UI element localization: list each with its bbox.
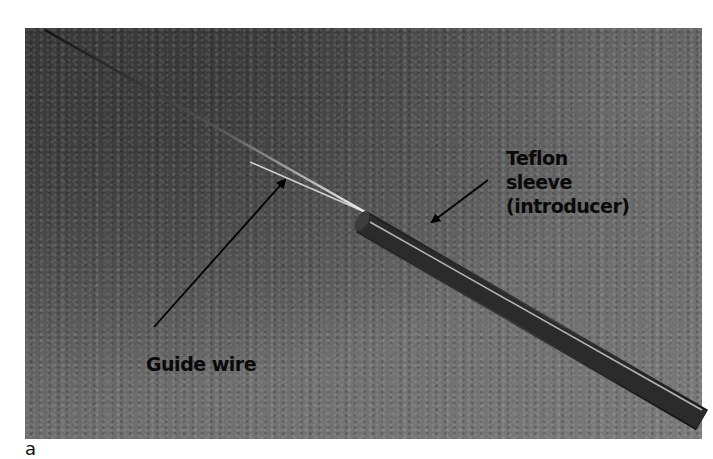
label-teflon-line1: Teflon [506,146,630,170]
label-teflon-line3: (introducer) [506,194,630,218]
panel-letter: a [25,440,36,458]
sleeve-arrow [432,180,488,222]
photo-overlay [0,0,713,459]
label-teflon-line2: sleeve [506,170,630,194]
teflon-sleeve [351,208,702,420]
label-teflon-sleeve: Teflon sleeve (introducer) [506,146,630,218]
guide-wire [45,30,365,212]
guide-wire-arrow [154,180,285,327]
label-guide-wire: Guide wire [146,352,256,376]
